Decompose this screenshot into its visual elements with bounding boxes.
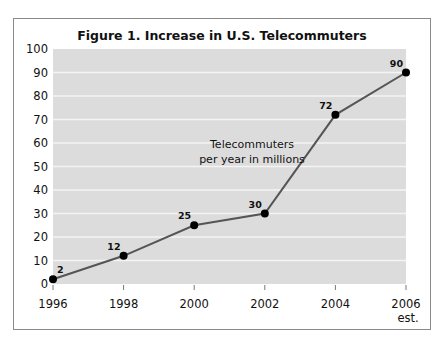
data-label: 90 (390, 58, 404, 69)
x-axis-ticks: 199619982000200220042006est. (38, 285, 420, 325)
data-point (331, 111, 339, 119)
y-tick-label: 10 (33, 254, 48, 268)
annotation-line: per year in millions (199, 153, 305, 166)
y-tick-label: 70 (33, 113, 48, 127)
x-tick-label: 2006 (391, 297, 420, 311)
data-point (190, 221, 198, 229)
y-tick-label: 100 (26, 42, 48, 56)
data-point (49, 275, 57, 283)
y-tick-label: 40 (33, 183, 48, 197)
chart-title: Figure 1. Increase in U.S. Telecommuters (77, 28, 366, 43)
x-tick-label: 1996 (38, 297, 67, 311)
y-tick-label: 0 (41, 277, 48, 291)
data-label: 25 (178, 210, 191, 221)
x-tick-label: 2002 (250, 297, 279, 311)
annotation-line: Telecommuters (209, 138, 294, 151)
x-tick-label: 1998 (109, 297, 138, 311)
y-axis-ticks: 0102030405060708090100 (26, 42, 48, 291)
line-chart: Figure 1. Increase in U.S. Telecommuters… (0, 0, 447, 344)
data-label: 12 (107, 241, 120, 252)
data-label: 2 (57, 264, 64, 275)
data-label: 30 (249, 199, 263, 210)
y-tick-label: 80 (33, 89, 48, 103)
data-point (261, 210, 269, 218)
x-tick-label: 2004 (321, 297, 350, 311)
data-point (120, 252, 128, 260)
data-label: 72 (319, 100, 332, 111)
x-tick-label: 2000 (180, 297, 209, 311)
y-tick-label: 60 (33, 136, 48, 150)
data-point (402, 69, 410, 77)
y-tick-label: 20 (33, 230, 48, 244)
y-tick-label: 90 (33, 66, 48, 80)
x-tick-sublabel: est. (397, 311, 418, 325)
y-tick-label: 50 (33, 160, 48, 174)
y-tick-label: 30 (33, 207, 48, 221)
